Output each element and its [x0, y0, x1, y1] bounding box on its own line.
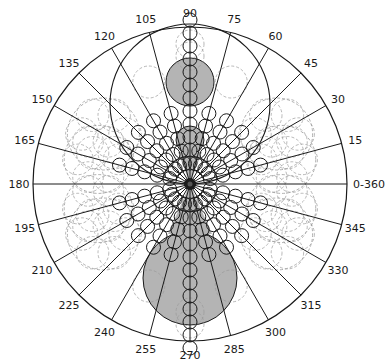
angle-label: 195: [14, 222, 35, 235]
dashed-circle: [98, 99, 130, 131]
dashed-circle: [66, 118, 98, 150]
dashed-circle: [282, 218, 314, 250]
angle-label: 150: [31, 93, 52, 106]
dashed-circle: [271, 237, 303, 269]
dashed-circle: [271, 99, 303, 131]
dashed-circle: [250, 99, 282, 131]
angle-label: 165: [14, 134, 35, 147]
dashed-circle: [66, 218, 98, 250]
radial-line: [54, 106, 190, 185]
angle-label: 105: [135, 13, 156, 26]
dashed-circle: [76, 99, 108, 131]
dashed-circle: [73, 176, 104, 207]
angle-label: 225: [59, 299, 80, 312]
angle-label: 345: [345, 222, 366, 235]
angle-label: 90: [183, 7, 197, 20]
angle-label: 270: [180, 349, 201, 362]
dashed-circle: [63, 144, 94, 175]
dashed-circle: [250, 237, 282, 269]
center-dot-inner: [188, 182, 193, 187]
angle-label: 120: [94, 30, 115, 43]
angle-label: 315: [300, 299, 321, 312]
angle-label: 135: [59, 57, 80, 70]
angle-label: 45: [304, 57, 318, 70]
dashed-circle: [76, 137, 108, 169]
dashed-circle: [282, 118, 314, 150]
angle-label: 75: [227, 13, 241, 26]
angle-label: 330: [328, 264, 349, 277]
angle-label: 30: [331, 93, 345, 106]
angle-label: 240: [94, 326, 115, 339]
angle-label: 15: [348, 134, 362, 147]
angle-label: 0-360: [353, 178, 385, 191]
dashed-circle: [256, 176, 287, 207]
angle-label: 210: [31, 264, 52, 277]
angle-label: 285: [224, 343, 245, 356]
angle-label: 180: [9, 178, 30, 191]
dashed-circle: [76, 237, 108, 269]
angle-label: 60: [269, 30, 283, 43]
polar-diagram: 0-36015304560759010512013515016518019521…: [0, 0, 390, 364]
angle-label: 255: [135, 343, 156, 356]
center-point: [184, 178, 196, 190]
angle-label: 300: [265, 326, 286, 339]
dashed-circle: [98, 237, 130, 269]
dashed-circle: [271, 137, 303, 169]
dashed-circle: [109, 118, 141, 150]
